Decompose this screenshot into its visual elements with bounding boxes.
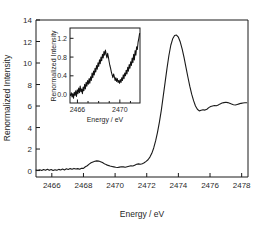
inset-y-axis-label: Renormalized Intensity bbox=[50, 30, 58, 102]
main-y-tick-label: 4 bbox=[28, 124, 33, 133]
inset-x-axis-label: Energy / eV bbox=[87, 116, 124, 124]
main-y-tick-label: 12 bbox=[23, 38, 32, 47]
figure-container: 2466246824702472247424762478 02468101214… bbox=[0, 0, 269, 226]
main-y-tick-label: 14 bbox=[23, 16, 32, 25]
main-x-tick-label: 2478 bbox=[233, 181, 251, 190]
main-x-tick-label: 2470 bbox=[106, 181, 124, 190]
inset-y-tick-label: 0.4 bbox=[57, 72, 67, 79]
inset-y-tick-label: 1.2 bbox=[57, 35, 67, 42]
main-y-axis-label: Renormalized Intensity bbox=[2, 54, 12, 141]
inset-y-tick-label: 0.8 bbox=[57, 54, 67, 61]
main-x-tick-label: 2468 bbox=[75, 181, 93, 190]
inset-x-tick-label: 2470 bbox=[112, 106, 128, 113]
main-y-tick-label: 6 bbox=[28, 102, 33, 111]
main-y-tick-label: 2 bbox=[28, 145, 33, 154]
main-x-tick-label: 2474 bbox=[169, 181, 187, 190]
inset-y-tick-label: 0.0 bbox=[57, 91, 67, 98]
main-x-tick-label: 2472 bbox=[138, 181, 156, 190]
main-x-tick-label: 2466 bbox=[43, 181, 61, 190]
main-x-axis-label: Energy / eV bbox=[120, 209, 165, 219]
main-y-tick-label: 10 bbox=[23, 59, 32, 68]
main-y-tick-label: 8 bbox=[28, 81, 33, 90]
main-x-tick-label: 2476 bbox=[201, 181, 219, 190]
xanes-spectrum-chart: 2466246824702472247424762478 02468101214… bbox=[0, 0, 269, 226]
inset-x-tick-label: 2466 bbox=[70, 106, 86, 113]
main-y-tick-label: 0 bbox=[28, 167, 33, 176]
